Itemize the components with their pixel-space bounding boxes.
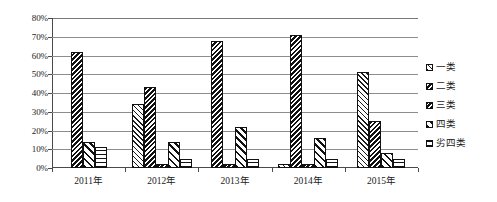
bar	[180, 159, 192, 168]
legend-label: 劣四类	[436, 139, 466, 149]
x-axis-tick-label: 2012年	[125, 170, 198, 192]
x-axis-labels: 2011年2012年2013年2014年2015年	[52, 170, 418, 192]
bar-groups	[52, 18, 418, 168]
legend-item[interactable]: 二类	[426, 77, 494, 96]
bar	[247, 159, 259, 168]
y-axis-tick-label: 80%	[4, 14, 48, 23]
y-axis-tick-label: 60%	[4, 52, 48, 61]
bar	[369, 121, 381, 168]
legend-label: 一类	[436, 63, 456, 73]
bar-group	[345, 18, 418, 168]
legend-swatch-icon	[426, 140, 433, 147]
bar	[326, 159, 338, 168]
x-axis-tick-label: 2011年	[52, 170, 125, 192]
bar	[393, 159, 405, 168]
bar	[132, 104, 144, 168]
y-axis-tick-label: 70%	[4, 33, 48, 42]
bar	[223, 164, 235, 168]
legend-item[interactable]: 四类	[426, 115, 494, 134]
legend-label: 四类	[436, 120, 456, 130]
x-axis-tick-mark	[272, 168, 273, 172]
y-axis: 80%70%60%50%40%30%20%10%0%	[0, 18, 48, 168]
x-axis-tick-mark	[125, 168, 126, 172]
bar	[290, 35, 302, 168]
bar	[156, 164, 168, 168]
chart-legend: 一类二类三类四类劣四类	[426, 58, 494, 153]
bar	[381, 153, 393, 168]
legend-item[interactable]: 劣四类	[426, 134, 494, 153]
legend-swatch-icon	[426, 102, 433, 109]
bar-group	[198, 18, 271, 168]
y-axis-tick-label: 30%	[4, 108, 48, 117]
x-axis-tick-mark	[198, 168, 199, 172]
plot-area	[52, 18, 418, 168]
legend-swatch-icon	[426, 64, 433, 71]
bar-chart: 80%70%60%50%40%30%20%10%0% 2011年2012年201…	[0, 0, 497, 202]
bar	[302, 164, 314, 168]
legend-item[interactable]: 一类	[426, 58, 494, 77]
legend-item[interactable]: 三类	[426, 96, 494, 115]
legend-label: 三类	[436, 101, 456, 111]
bar	[314, 138, 326, 168]
legend-label: 二类	[436, 82, 456, 92]
bar	[71, 52, 83, 168]
bar	[235, 127, 247, 168]
bar	[357, 72, 369, 168]
bar	[83, 142, 95, 168]
bar	[211, 41, 223, 169]
x-axis-tick-mark	[345, 168, 346, 172]
legend-swatch-icon	[426, 83, 433, 90]
legend-swatch-icon	[426, 121, 433, 128]
bar-group	[125, 18, 198, 168]
x-axis-tick-mark	[418, 168, 419, 172]
y-axis-tick-label: 10%	[4, 145, 48, 154]
bar	[278, 164, 290, 168]
y-axis-tick-label: 40%	[4, 89, 48, 98]
bar	[168, 142, 180, 168]
x-axis-tick-mark	[52, 168, 53, 172]
x-axis-tick-label: 2013年	[198, 170, 271, 192]
x-axis-tick-label: 2015年	[345, 170, 418, 192]
x-axis-tick-label: 2014年	[272, 170, 345, 192]
bar	[144, 87, 156, 168]
y-axis-tick-label: 50%	[4, 70, 48, 79]
y-axis-tick-label: 20%	[4, 127, 48, 136]
bar-group	[272, 18, 345, 168]
y-axis-tick-label: 0%	[4, 164, 48, 173]
bar	[95, 147, 107, 168]
bar-group	[52, 18, 125, 168]
